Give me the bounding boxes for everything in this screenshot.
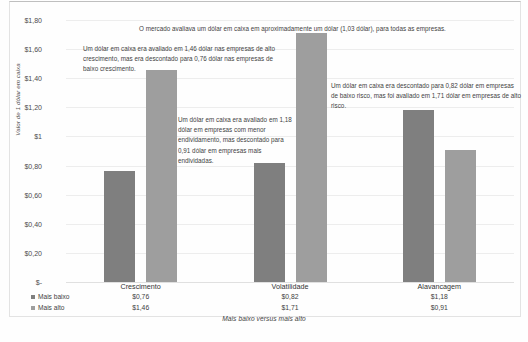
bar-alavancagem-mais-alto	[445, 150, 476, 282]
category-label-alavancagem: Alavancagem	[418, 282, 462, 291]
bar-volatilidade-mais-baixo	[254, 163, 285, 282]
y-axis-tick-label: $1,60	[0, 46, 42, 53]
bar-crescimento-mais-baixo	[104, 171, 135, 282]
value-mais-baixo-volatilidade: $0,82	[281, 293, 298, 300]
data-table: CrescimentoVolatilidadeAlavancagem $0,76…	[9, 282, 521, 316]
cash-valuation-bar-chart: $1,80$1,60$1,40$1,20$1$0,80$0,60$0,40$0,…	[0, 0, 528, 342]
y-axis-tick-label: $0,60	[0, 191, 42, 198]
value-mais-alto-alavancagem: $0,91	[431, 304, 448, 311]
table-row-mais-baixo: $0,76$0,82$1,18Mais baixo	[9, 293, 521, 304]
gridline	[66, 78, 514, 79]
y-axis-tick-label: $1,40	[0, 75, 42, 82]
annotation-growth: Um dólar em caixa era avaliado em 1,46 d…	[83, 44, 279, 75]
legend-entry-mais-alto[interactable]: Mais alto	[31, 304, 64, 311]
y-axis-title: Valor de 1 dólar em caixa	[14, 40, 21, 160]
legend-swatch-icon	[31, 306, 35, 310]
table-row-categories: CrescimentoVolatilidadeAlavancagem	[9, 282, 521, 293]
y-axis-tick-label: $1,20	[0, 104, 42, 111]
annotation-market-average: O mercado avaliava um dólar em caixa em …	[139, 24, 511, 34]
category-label-crescimento: Crescimento	[120, 282, 160, 291]
legend-swatch-icon	[31, 295, 35, 299]
annotation-risk: Um dólar em caixa era descontado para 0,…	[331, 81, 521, 112]
y-axis-tick-label: $0,80	[0, 162, 42, 169]
legend-label: Mais baixo	[38, 293, 70, 300]
bar-alavancagem-mais-baixo	[403, 110, 434, 282]
annotation-leverage: Um dólar em caixa era avaliado em 1,18 d…	[178, 115, 294, 166]
gridline	[66, 20, 514, 21]
x-axis-title: Mais baixo versus mais alto	[0, 315, 528, 322]
legend-label: Mais alto	[38, 304, 64, 311]
y-axis-tick-label: $1	[0, 133, 42, 140]
value-mais-baixo-alavancagem: $1,18	[431, 293, 448, 300]
y-axis-tick-label: $1,80	[0, 17, 42, 24]
bar-volatilidade-mais-alto	[296, 33, 327, 282]
table-row-mais-alto: $1,46$1,71$0,91Mais alto	[9, 304, 521, 315]
value-mais-baixo-crescimento: $0,76	[132, 293, 149, 300]
legend-entry-mais-baixo[interactable]: Mais baixo	[31, 293, 70, 300]
y-axis-tick-label: $0,40	[0, 220, 42, 227]
value-mais-alto-volatilidade: $1,71	[281, 304, 298, 311]
y-axis-tick-label: $0,20	[0, 249, 42, 256]
bar-crescimento-mais-alto	[146, 70, 177, 283]
category-label-volatilidade: Volatilidade	[272, 282, 309, 291]
value-mais-alto-crescimento: $1,46	[132, 304, 149, 311]
